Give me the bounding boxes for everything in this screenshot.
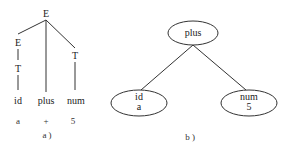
leaf-id: id [14,95,22,106]
value-plus: + [43,116,48,126]
syntax-tree-figure: E E T T id plus num a + 5 a ) plus id a … [0,0,284,153]
value-a: a [16,116,20,126]
parse-tree-a: E E T T id plus num a + 5 a ) [14,8,85,140]
value-5: 5 [71,116,76,126]
node-t-left: T [15,63,21,74]
edge-plus-to-num [193,45,246,90]
node-id-value: a [137,101,142,112]
caption-b: b ) [185,132,195,142]
syntax-tree-b: plus id a num 5 b ) [111,21,277,142]
edge-root-to-t [46,20,75,48]
node-plus-label: plus [185,27,202,38]
edge-plus-to-id [141,45,193,90]
leaf-plus: plus [38,95,55,106]
leaf-num: num [67,95,85,106]
caption-a: a ) [42,130,51,140]
node-root-e: E [43,8,49,19]
node-e: E [15,37,21,48]
node-num-value: 5 [247,101,252,112]
edge-root-to-e [18,20,46,34]
node-t-right: T [72,50,78,61]
